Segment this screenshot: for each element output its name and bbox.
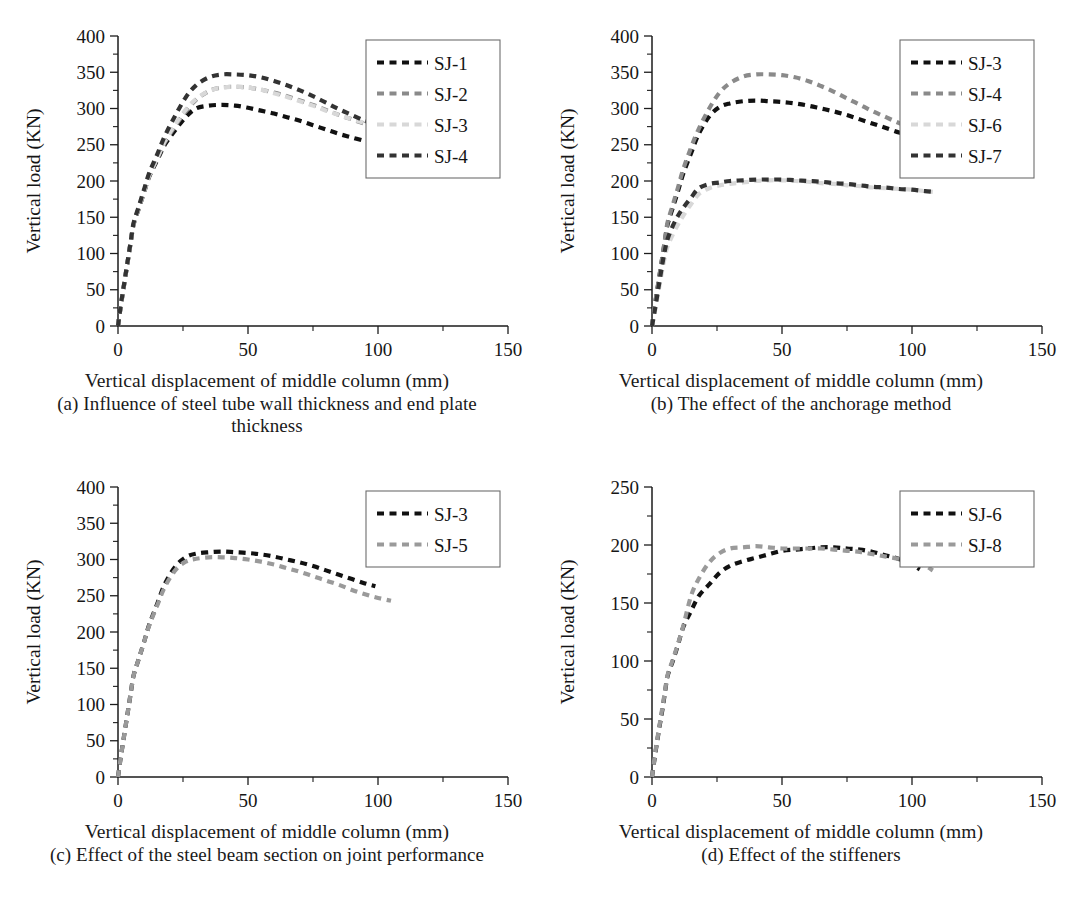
y-tick-label-350: 350	[611, 62, 640, 83]
series-line-SJ-5	[118, 557, 391, 777]
series-line-SJ-6	[652, 547, 920, 777]
y-tick-label-200: 200	[77, 171, 106, 192]
series-line-SJ-3	[118, 552, 375, 777]
y-axis-title: Vertical load (KN)	[557, 108, 579, 253]
plot-area-d: 050100150200250050100150Vertical load (K…	[534, 451, 1068, 823]
legend-label-SJ-1: SJ-1	[434, 53, 468, 74]
x-tick-label-50: 50	[239, 790, 258, 811]
y-tick-label-0: 0	[96, 767, 106, 788]
x-axis-title-c: Vertical displacement of middle column (…	[0, 821, 534, 843]
legend-label-SJ-4: SJ-4	[968, 84, 1002, 105]
y-tick-label-0: 0	[630, 767, 640, 788]
x-tick-label-50: 50	[773, 339, 792, 360]
legend: SJ-3SJ-5	[366, 491, 500, 567]
x-tick-label-0: 0	[647, 339, 657, 360]
y-tick-label-50: 50	[620, 279, 639, 300]
y-tick-label-100: 100	[611, 651, 640, 672]
legend-label-SJ-2: SJ-2	[434, 84, 468, 105]
x-tick-label-150: 150	[1028, 339, 1057, 360]
subcaption-d: (d) Effect of the stiffeners	[534, 844, 1068, 866]
subcaption-b: (b) The effect of the anchorage method	[534, 393, 1068, 415]
y-axis-title: Vertical load (KN)	[23, 108, 45, 253]
series-line-SJ-4	[118, 74, 375, 326]
x-tick-label-100: 100	[364, 790, 393, 811]
y-tick-label-150: 150	[77, 658, 106, 679]
series-line-SJ-3	[652, 101, 907, 326]
figure-sheet: 050100150200250300350400050100150Vertica…	[0, 0, 1068, 902]
x-axis-title-b: Vertical displacement of middle column (…	[534, 370, 1068, 392]
y-tick-label-350: 350	[77, 513, 106, 534]
y-tick-label-300: 300	[77, 549, 106, 570]
y-tick-label-150: 150	[611, 207, 640, 228]
chart-svg-d: 050100150200250050100150Vertical load (K…	[534, 451, 1068, 823]
y-tick-label-0: 0	[96, 316, 106, 337]
legend: SJ-6SJ-8	[900, 491, 1034, 567]
y-axis-title: Vertical load (KN)	[557, 559, 579, 704]
legend-label-SJ-3: SJ-3	[968, 53, 1002, 74]
plot-area-a: 050100150200250300350400050100150Vertica…	[0, 0, 534, 372]
y-tick-label-150: 150	[611, 593, 640, 614]
y-axis-title: Vertical load (KN)	[23, 559, 45, 704]
y-tick-label-250: 250	[611, 477, 640, 498]
chart-svg-b: 050100150200250300350400050100150Vertica…	[534, 0, 1068, 372]
y-tick-label-250: 250	[77, 585, 106, 606]
x-axis-title-a: Vertical displacement of middle column (…	[0, 370, 534, 392]
series-line-SJ-8	[652, 546, 933, 777]
x-tick-label-50: 50	[773, 790, 792, 811]
plot-area-b: 050100150200250300350400050100150Vertica…	[534, 0, 1068, 372]
x-tick-label-100: 100	[898, 339, 927, 360]
legend-frame	[366, 40, 500, 178]
plot-area-c: 050100150200250300350400050100150Vertica…	[0, 451, 534, 823]
series-line-SJ-1	[118, 105, 373, 326]
legend-label-SJ-3: SJ-3	[434, 115, 468, 136]
chart-svg-a: 050100150200250300350400050100150Vertica…	[0, 0, 534, 372]
x-tick-label-100: 100	[898, 790, 927, 811]
legend-frame	[900, 491, 1034, 567]
series-line-SJ-4	[652, 74, 909, 326]
legend-label-SJ-3: SJ-3	[434, 504, 468, 525]
chart-panel-b: 050100150200250300350400050100150Vertica…	[534, 0, 1068, 451]
legend-label-SJ-5: SJ-5	[434, 535, 468, 556]
y-tick-label-300: 300	[77, 98, 106, 119]
chart-panel-d: 050100150200250050100150Vertical load (K…	[534, 451, 1068, 902]
chart-panel-c: 050100150200250300350400050100150Vertica…	[0, 451, 534, 902]
y-tick-label-100: 100	[611, 243, 640, 264]
x-tick-label-0: 0	[113, 339, 123, 360]
legend-label-SJ-6: SJ-6	[968, 504, 1002, 525]
legend-label-SJ-4: SJ-4	[434, 146, 468, 167]
y-tick-label-400: 400	[77, 26, 106, 47]
chart-svg-c: 050100150200250300350400050100150Vertica…	[0, 451, 534, 823]
x-tick-label-0: 0	[647, 790, 657, 811]
x-tick-label-150: 150	[494, 790, 523, 811]
y-tick-label-300: 300	[611, 98, 640, 119]
legend-label-SJ-7: SJ-7	[968, 146, 1002, 167]
x-tick-label-100: 100	[364, 339, 393, 360]
y-tick-label-200: 200	[77, 622, 106, 643]
legend: SJ-1SJ-2SJ-3SJ-4	[366, 40, 500, 178]
subcaption-a: (a) Influence of steel tube wall thickne…	[0, 393, 534, 438]
y-tick-label-200: 200	[611, 171, 640, 192]
legend-label-SJ-8: SJ-8	[968, 535, 1002, 556]
series-line-SJ-3	[118, 87, 375, 326]
x-tick-label-150: 150	[494, 339, 523, 360]
y-tick-label-250: 250	[611, 134, 640, 155]
y-tick-label-250: 250	[77, 134, 106, 155]
subcaption-c: (c) Effect of the steel beam section on …	[0, 844, 534, 866]
y-tick-label-100: 100	[77, 243, 106, 264]
y-tick-label-50: 50	[86, 279, 105, 300]
y-tick-label-0: 0	[630, 316, 640, 337]
series-line-SJ-2	[118, 87, 375, 326]
y-tick-label-350: 350	[77, 62, 106, 83]
legend: SJ-3SJ-4SJ-6SJ-7	[900, 40, 1034, 178]
legend-frame	[900, 40, 1034, 178]
series-line-SJ-6	[652, 180, 933, 326]
y-tick-label-50: 50	[86, 730, 105, 751]
x-axis-title-d: Vertical displacement of middle column (…	[534, 821, 1068, 843]
chart-panel-a: 050100150200250300350400050100150Vertica…	[0, 0, 534, 451]
x-tick-label-150: 150	[1028, 790, 1057, 811]
y-tick-label-150: 150	[77, 207, 106, 228]
y-tick-label-100: 100	[77, 694, 106, 715]
legend-frame	[366, 491, 500, 567]
x-tick-label-50: 50	[239, 339, 258, 360]
y-tick-label-200: 200	[611, 535, 640, 556]
